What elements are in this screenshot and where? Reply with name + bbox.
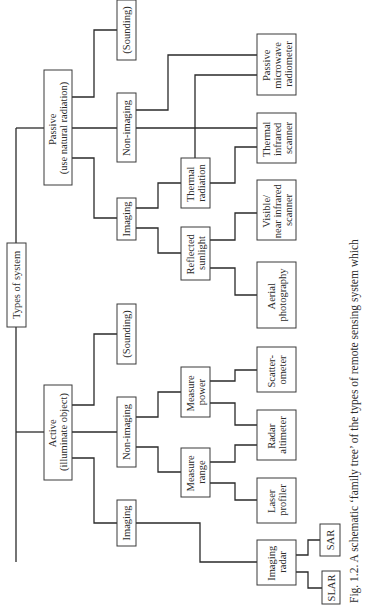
node-imaging-radar: Imaging radar (257, 540, 296, 585)
svg-text:Non-imaging: Non-imaging (121, 99, 132, 156)
node-passive-sounding: (Sounding) (117, 0, 136, 60)
node-laser-profiler: Laser profiler (257, 478, 296, 523)
figure-caption: Fig. 1.2. A schematic ‘family tree’ of t… (348, 239, 361, 603)
edge-passive-sounding (72, 30, 117, 97)
svg-text:Laser profiler: Laser profiler (266, 484, 288, 516)
edge-reflected-visible (210, 213, 257, 240)
edge-passive-imaging (72, 158, 117, 218)
svg-text:Imaging: Imaging (121, 505, 132, 541)
edge-power-scatter (210, 370, 257, 381)
edge-reflected-aerial (210, 268, 257, 295)
edge-active-imaging (72, 458, 117, 523)
edge-pimg-reflected (136, 228, 181, 253)
edge-radar-slar (296, 572, 323, 588)
node-slar: SLAR (322, 571, 340, 604)
svg-text:Types of system: Types of system (11, 251, 22, 319)
edge-power-altimeter (210, 403, 257, 425)
svg-text:Thermal infrared: Thermal infrared scanner (261, 119, 294, 157)
node-scatterometer: Scatter- ometer (257, 347, 296, 392)
svg-text:Thermal radiation: Thermal radiation (185, 164, 207, 203)
edge-pnonimg-microwave (136, 55, 257, 110)
node-active: Active (illuminate object) (44, 385, 72, 480)
node-thermal-infrared-scanner: Thermal infrared scanner (257, 113, 296, 163)
svg-text:Reflected sunlight: Reflected sunlight (185, 232, 207, 275)
svg-text:(Sounding): (Sounding) (121, 6, 133, 54)
edge-radar-sar (296, 540, 320, 555)
node-passive-imaging: Imaging (117, 198, 136, 240)
edge-range-laser (210, 483, 257, 500)
nodes: Types of system Passive (use natural rad… (7, 0, 340, 604)
svg-text:Scatter- ometer: Scatter- ometer (266, 352, 288, 387)
node-aerial-photography: Aerial photography (257, 262, 296, 328)
svg-text:SLAR: SLAR (326, 575, 337, 602)
node-radar-altimeter: Radar altimeter (257, 410, 296, 460)
svg-text:Radar altimeter: Radar altimeter (266, 416, 288, 454)
node-root: Types of system (7, 243, 26, 327)
node-active-imaging: Imaging (117, 500, 136, 546)
edge-range-altimeter (210, 445, 257, 462)
svg-text:SAR: SAR (325, 530, 336, 550)
node-measure-range: Measure range (181, 448, 210, 497)
svg-text:Non-imaging: Non-imaging (121, 403, 132, 460)
edge-anonimg-range (136, 447, 181, 472)
node-active-nonimaging: Non-imaging (117, 397, 136, 467)
node-visible-nir-scanner: Visible/ near infrared scanner (257, 180, 296, 240)
node-measure-power: Measure power (181, 367, 210, 417)
edge-thermal-thermalir (210, 147, 257, 183)
remote-sensing-family-tree: Types of system Passive (use natural rad… (0, 0, 369, 605)
edge-active-sounding (72, 334, 117, 405)
node-passive-microwave-radiometer: Passive microwave radiometer (257, 34, 296, 95)
edge-thermal-microwave (195, 75, 257, 158)
edge-pimg-thermal (136, 183, 181, 208)
node-active-sounding: (Sounding) (117, 304, 136, 364)
edge-anonimg-power (136, 392, 181, 417)
node-passive: Passive (use natural radiation) (44, 70, 72, 185)
svg-text:(Sounding): (Sounding) (121, 310, 133, 358)
node-sar: SAR (320, 524, 340, 556)
node-passive-nonimaging: Non-imaging (117, 93, 136, 162)
edge-aimg-radar (136, 523, 257, 562)
node-thermal-radiation: Thermal radiation (181, 158, 210, 208)
node-reflected-sunlight: Reflected sunlight (181, 227, 210, 280)
svg-text:Imaging: Imaging (121, 201, 132, 237)
